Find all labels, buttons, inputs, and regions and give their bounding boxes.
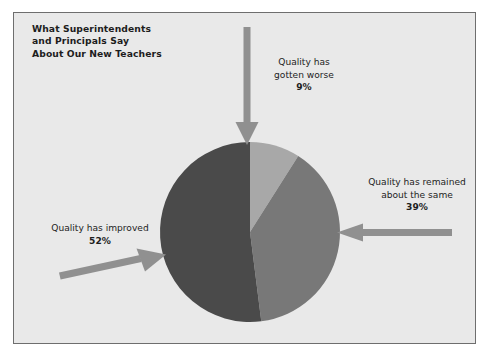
chart-canvas: What Superintendents and Principals Say … bbox=[0, 0, 495, 362]
pie-slice-improved bbox=[160, 142, 261, 322]
callout-gotten-worse: Quality has gotten worse 9% bbox=[248, 56, 360, 94]
callout-improved-line-1: Quality has improved bbox=[34, 222, 166, 235]
callout-worse-line-2: gotten worse bbox=[248, 69, 360, 82]
callout-same-line-1: Quality has remained bbox=[347, 176, 487, 189]
arrow-remained-same bbox=[337, 224, 452, 242]
callout-improved: Quality has improved 52% bbox=[34, 222, 166, 247]
arrow-improved bbox=[59, 249, 166, 280]
callout-worse-percent: 9% bbox=[248, 81, 360, 94]
callout-improved-percent: 52% bbox=[34, 235, 166, 248]
callout-same-line-2: about the same bbox=[347, 189, 487, 202]
callout-same-percent: 39% bbox=[347, 201, 487, 214]
callout-worse-line-1: Quality has bbox=[248, 56, 360, 69]
callout-remained-same: Quality has remained about the same 39% bbox=[347, 176, 487, 214]
